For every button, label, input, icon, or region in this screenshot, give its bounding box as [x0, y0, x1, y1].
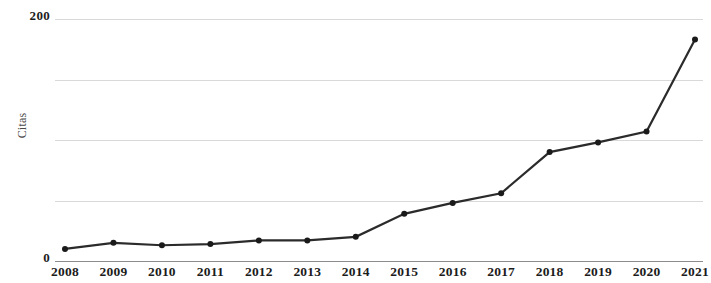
x-tick-label: 2012 [236, 264, 282, 280]
data-point [401, 211, 407, 217]
data-point [304, 237, 310, 243]
data-point [110, 240, 116, 246]
data-point [62, 246, 68, 252]
x-tick-label: 2018 [527, 264, 573, 280]
x-tick-label: 2019 [575, 264, 621, 280]
data-point [159, 242, 165, 248]
x-tick-label: 2021 [672, 264, 711, 280]
data-point [644, 129, 650, 135]
citations-line-chart: Citas 200 0 2008200920102011201220132014… [0, 0, 711, 283]
plot-area: 2008200920102011201220132014201520162017… [55, 0, 703, 283]
y-axis-title: Citas [15, 96, 30, 156]
data-point [450, 200, 456, 206]
x-tick-label: 2011 [187, 264, 233, 280]
data-point [353, 234, 359, 240]
y-tick-label-200: 200 [8, 8, 50, 24]
series-line [65, 40, 695, 249]
data-point [498, 190, 504, 196]
x-tick-label: 2015 [381, 264, 427, 280]
data-point [207, 241, 213, 247]
x-tick-label: 2013 [284, 264, 330, 280]
data-point [692, 37, 698, 43]
x-tick-label: 2009 [90, 264, 136, 280]
data-point [595, 139, 601, 145]
series-citas [55, 0, 703, 283]
x-tick-label: 2016 [430, 264, 476, 280]
x-tick-label: 2017 [478, 264, 524, 280]
series-markers [62, 37, 698, 252]
data-point [547, 149, 553, 155]
x-tick-label: 2020 [624, 264, 670, 280]
data-point [256, 237, 262, 243]
x-tick-label: 2008 [42, 264, 88, 280]
x-tick-label: 2014 [333, 264, 379, 280]
x-tick-label: 2010 [139, 264, 185, 280]
